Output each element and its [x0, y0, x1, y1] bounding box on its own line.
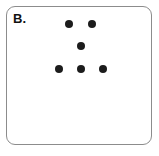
dot-top-right [88, 20, 96, 28]
dot-bottom-right [99, 65, 107, 73]
dot-layer [0, 0, 159, 156]
dot-bottom-left [55, 65, 63, 73]
dot-middle [77, 42, 85, 50]
figure-panel-b: B. [0, 0, 159, 156]
dot-bottom-mid [77, 65, 85, 73]
dot-top-left [65, 20, 73, 28]
